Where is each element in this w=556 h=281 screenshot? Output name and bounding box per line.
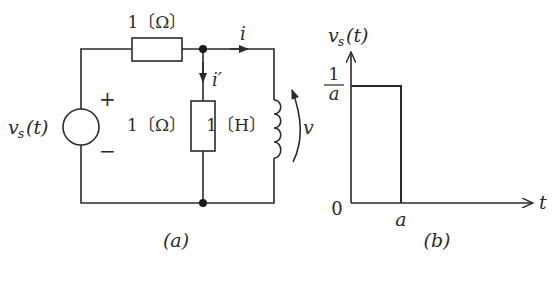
figure-canvas: 1〔Ω〕 1〔Ω〕 1〔H〕 i i′ v + − v s (t) (a) v … — [0, 0, 556, 281]
current-i-prime-label: i′ — [212, 69, 222, 90]
series-resistor-label: 1〔Ω〕 — [128, 12, 187, 32]
inductor-icon — [274, 100, 281, 158]
voltage-arrow-icon — [292, 90, 300, 162]
y-tick-numerator: 1 — [329, 64, 340, 84]
voltage-source-icon — [63, 109, 99, 145]
svg-text:s: s — [18, 127, 24, 141]
y-axis-label: v s (t) — [328, 24, 368, 49]
source-label: v s (t) — [8, 116, 48, 141]
caption-a: (a) — [163, 229, 189, 251]
x-axis-label: t — [539, 191, 547, 213]
caption-b: (b) — [424, 229, 451, 251]
pulse-graph — [324, 52, 533, 203]
current-i-label: i — [240, 23, 246, 44]
junction-dot-bottom — [199, 199, 207, 207]
x-tick-a: a — [395, 208, 406, 230]
source-plus-label: + — [99, 87, 116, 111]
wire-top-mid — [182, 49, 274, 100]
origin-label: 0 — [331, 198, 342, 219]
junction-dot-top — [199, 45, 207, 53]
svg-text:(t): (t) — [346, 24, 368, 46]
y-tick-denominator: a — [329, 83, 340, 104]
shunt-resistor-label: 1〔Ω〕 — [127, 115, 186, 135]
series-resistor — [132, 38, 182, 61]
source-minus-label: − — [99, 139, 116, 163]
inductor-label: 1〔H〕 — [206, 115, 266, 135]
svg-text:(t): (t) — [26, 116, 48, 138]
svg-text:s: s — [338, 35, 344, 49]
voltage-v-label: v — [303, 116, 314, 138]
pulse-waveform — [351, 86, 401, 203]
